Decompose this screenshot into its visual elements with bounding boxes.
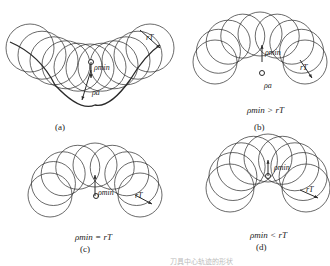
panel-b-rT: rT bbox=[300, 63, 308, 72]
panel-b-tool-circle bbox=[206, 20, 250, 64]
panel-a-contour bbox=[10, 42, 160, 106]
panel-b-rho-min: ρmin bbox=[264, 48, 281, 57]
panel-a-tool-circle bbox=[18, 31, 66, 79]
panel-d-tool-circle bbox=[209, 153, 257, 201]
panel-d-rho-min-arrow-head bbox=[266, 160, 269, 164]
panel-b-label: (b) bbox=[254, 122, 265, 132]
caption-fragment: 刀具中心轨迹的形状 bbox=[170, 257, 233, 266]
panel-c-rho-min-arrow-head bbox=[93, 175, 96, 179]
panel-c-relation: ρmin = rT bbox=[74, 232, 113, 242]
panel-b-tool-circle bbox=[270, 20, 314, 64]
panel-c bbox=[28, 143, 162, 217]
tool-path-diagram: (a) ρmin > rT (b) ρmin = rT (c) ρmin < r… bbox=[0, 0, 330, 266]
panel-d-tool-circle bbox=[279, 153, 327, 201]
panel-c-rho-min: ρmin bbox=[97, 188, 114, 197]
panel-a-tool-circle bbox=[114, 31, 162, 79]
panel-b-rho-min-arrow-head bbox=[260, 45, 263, 49]
panel-d-label: (d) bbox=[256, 242, 267, 252]
panel-b bbox=[193, 12, 327, 84]
panel-d bbox=[206, 134, 330, 212]
panel-b-rho-a: ρa bbox=[263, 81, 272, 90]
panel-d-relation: ρmin < rT bbox=[249, 230, 288, 240]
panel-a-rho-a: ρa bbox=[91, 88, 100, 97]
panel-d-rho-min: ρmin bbox=[273, 163, 290, 172]
panel-b-relation: ρmin > rT bbox=[246, 105, 285, 115]
panel-a-rT: rT bbox=[146, 33, 154, 42]
panel-a-rho-a-arrow-head bbox=[82, 96, 85, 100]
panel-a-rho-min: ρmin bbox=[93, 63, 110, 72]
panel-c-rT: rT bbox=[135, 191, 143, 200]
panel-c-tool-circle bbox=[56, 145, 100, 189]
panel-a-rho-a-arrow bbox=[82, 70, 91, 100]
panel-d-rT: rT bbox=[306, 185, 314, 194]
panel-c-label: (c) bbox=[80, 244, 90, 254]
panel-b-center-point bbox=[260, 71, 265, 76]
panel-a-label: (a) bbox=[55, 122, 65, 132]
